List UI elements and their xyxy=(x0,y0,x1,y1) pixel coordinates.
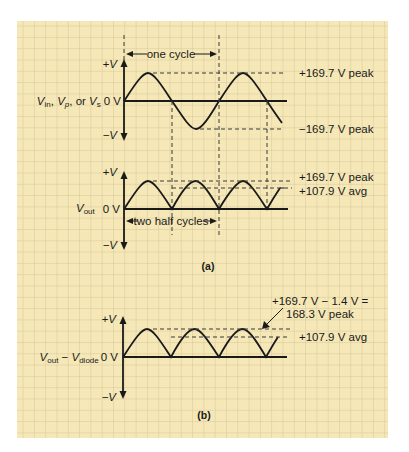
two-half-cycles-label: two half cycles xyxy=(134,215,209,227)
one-cycle-label: one cycle xyxy=(147,48,196,60)
rectifier-waveform-figure: one cycle +V −V Vin, Vp, or Vs0 V +169.7… xyxy=(0,0,409,452)
panel-a-caption: (a) xyxy=(202,260,215,272)
output-pos-axis-label: +V xyxy=(103,166,119,178)
b-avg-label: +107.9 V avg xyxy=(299,331,367,343)
output-avg-label: +107.9 V avg xyxy=(299,185,367,197)
input-pos-peak-label: +169.7 V peak xyxy=(299,67,374,79)
input-neg-axis-label: −V xyxy=(103,129,119,141)
b-neg-axis-label: −V xyxy=(102,391,118,403)
b-peak-result-label: 168.3 V peak xyxy=(286,308,354,320)
b-peak-calc-label: +169.7 V − 1.4 V = xyxy=(272,295,369,307)
panel-b-caption: (b) xyxy=(197,409,210,421)
output-zero-label: 0 V xyxy=(103,203,121,215)
output-neg-axis-label: −V xyxy=(103,239,119,251)
graph-paper xyxy=(17,21,388,438)
output-peak-label: +169.7 V peak xyxy=(299,171,374,183)
input-neg-peak-label: −169.7 V peak xyxy=(299,123,374,135)
input-pos-axis-label: +V xyxy=(103,58,119,70)
b-pos-axis-label: +V xyxy=(102,313,118,325)
